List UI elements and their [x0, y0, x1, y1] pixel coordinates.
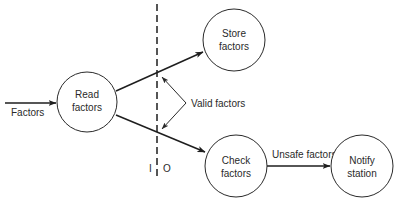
edge-check-to-notify: Unsafe factors	[267, 149, 336, 166]
node-label-line2: station	[347, 168, 376, 179]
valid-factors-label: Valid factors	[191, 98, 245, 109]
node-label-line1: Notify	[349, 155, 375, 166]
node-label-line1: Check	[222, 155, 251, 166]
valid-factors-annotation: Valid factors	[162, 77, 245, 129]
node-check-factors: Check factors	[205, 135, 267, 197]
node-label-line2: factors	[72, 102, 102, 113]
node-label-line2: factors	[219, 41, 249, 52]
node-label-line2: factors	[221, 168, 251, 179]
process-circle	[203, 9, 265, 71]
edge-label-factors: Factors	[11, 107, 44, 118]
edge-factors-input: Factors	[5, 103, 56, 118]
process-circle	[205, 135, 267, 197]
data-flow-diagram: Factors Valid factors I O Unsafe factors…	[0, 0, 397, 205]
process-circle	[331, 135, 393, 197]
edge-read-to-store	[116, 52, 203, 91]
edge-read-to-check	[116, 115, 205, 152]
node-label-line1: Read	[75, 89, 99, 100]
node-notify-station: Notify station	[331, 135, 393, 197]
edge-label-unsafe-factors: Unsafe factors	[272, 149, 336, 160]
boundary-input-label: I	[149, 163, 152, 174]
boundary-output-label: O	[163, 163, 171, 174]
valid-factors-pointer-lower	[162, 103, 186, 129]
valid-factors-pointer-upper	[162, 77, 186, 103]
node-label-line1: Store	[222, 28, 246, 39]
node-store-factors: Store factors	[203, 9, 265, 71]
node-read-factors: Read factors	[57, 72, 117, 132]
